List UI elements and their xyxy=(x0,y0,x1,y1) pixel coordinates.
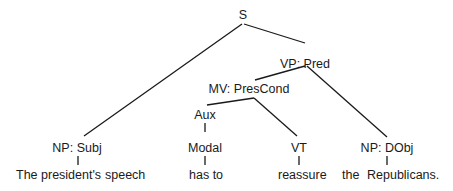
node-np-dobj: NP: DObj xyxy=(361,141,414,155)
word-reassure: reassure xyxy=(278,168,327,182)
edge-s-np-subj xyxy=(84,24,242,136)
edge-mv-aux xyxy=(207,98,254,105)
node-vt: VT xyxy=(291,141,307,155)
edge-s-vp-pred xyxy=(244,24,305,43)
word-has-to: has to xyxy=(189,168,223,182)
word-the-presidents: The president's xyxy=(16,168,101,182)
node-mv-prescond: MV: PresCond xyxy=(209,82,290,96)
word-speech: speech xyxy=(105,168,145,182)
word-the: the xyxy=(342,168,359,182)
edge-vp-np-dobj xyxy=(307,66,387,137)
word-republicans: Republicans. xyxy=(367,168,439,182)
edge-mv-vt xyxy=(254,98,297,136)
node-np-subj: NP: Subj xyxy=(52,141,101,155)
node-s: S xyxy=(239,8,247,22)
node-modal: Modal xyxy=(188,141,222,155)
node-vp-pred: VP: Pred xyxy=(280,57,330,71)
node-aux: Aux xyxy=(194,108,216,122)
